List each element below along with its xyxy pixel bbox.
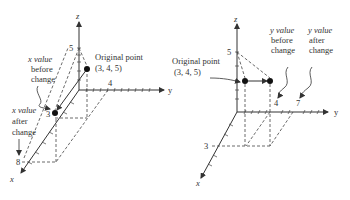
left-changed-point-dot: [52, 110, 58, 116]
left-annotation-after: x value after change: [11, 105, 37, 137]
left-annotation-before: x value before change: [27, 54, 55, 84]
right-changed-point-dot: [267, 78, 273, 84]
right-original-point-label: Original point: [172, 56, 221, 66]
svg-text:after: after: [309, 35, 325, 45]
right-original-point-coords: (3, 4, 5): [174, 67, 201, 77]
left-y4-label: 4: [108, 78, 113, 88]
right-after-pointer-curve: [300, 67, 312, 98]
left-x-label: x: [9, 174, 14, 184]
right-x-ticks: [208, 124, 233, 166]
right-x3-label: 3: [204, 141, 208, 151]
svg-text:change: change: [31, 74, 55, 84]
right-x-label: x: [195, 178, 200, 188]
svg-text:x value: x value: [27, 54, 53, 64]
left-x8-label: 8: [16, 157, 20, 167]
svg-text:change: change: [271, 45, 295, 55]
right-y-label: y: [334, 107, 339, 117]
svg-text:change: change: [12, 127, 36, 137]
right-before-pointer-curve: [278, 67, 288, 98]
left-original-point-dot: [84, 66, 90, 72]
right-original-point-dot: [242, 78, 248, 84]
svg-text:before: before: [271, 35, 293, 45]
left-z-label: z: [75, 11, 80, 21]
right-diagram: z y x 5 4 7 3 Original point (3, 4, 5) y…: [172, 14, 339, 188]
right-annotation-after: y value after change: [307, 25, 333, 55]
right-z-label: z: [233, 14, 238, 24]
left-original-point-coords: (3, 4, 5): [95, 63, 122, 73]
left-x3-label: 3: [46, 109, 50, 119]
svg-text:y value: y value: [307, 25, 333, 35]
svg-text:y value: y value: [269, 25, 295, 35]
left-y-label: y: [168, 85, 173, 95]
right-z5-label: 5: [227, 47, 231, 57]
left-diagram: z y x 5 4 3 8 Original point (3, 4, 5) x…: [9, 11, 173, 184]
svg-text:after: after: [12, 116, 28, 126]
left-z5-label: 5: [69, 43, 73, 53]
svg-text:change: change: [309, 45, 333, 55]
svg-text:before: before: [31, 64, 53, 74]
right-annotation-before: y value before change: [269, 25, 295, 55]
right-original-pointer-curve: [210, 78, 240, 82]
svg-text:x value: x value: [11, 105, 37, 115]
diagram-canvas: z y x 5 4 3 8 Original point (3, 4, 5) x…: [0, 0, 350, 200]
right-y4-label: 4: [274, 98, 279, 108]
right-y7-label: 7: [296, 98, 300, 108]
right-construction-lines: [212, 52, 293, 146]
left-original-point-label: Original point: [95, 52, 144, 62]
